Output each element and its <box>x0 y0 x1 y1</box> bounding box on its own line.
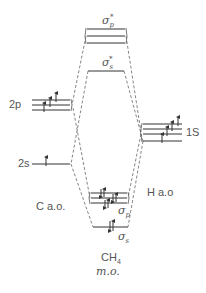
sigma-s-label: σs <box>118 231 129 245</box>
diagram-lines <box>0 0 206 293</box>
c-2s-label: 2s <box>18 158 30 169</box>
c-ao-label: C a.o. <box>36 201 65 212</box>
sigma-p-star-level <box>85 28 127 44</box>
c-2p-label: 2p <box>9 99 21 110</box>
sigma-p-star-label: σp* <box>102 14 118 29</box>
h-ao-label: H a.o <box>147 187 173 198</box>
sigma-s-star-label: σs* <box>102 56 117 71</box>
mo-label: m.o. <box>96 266 120 277</box>
sigma-p-label: σp <box>118 205 130 219</box>
mo-diagram: σp* σs* 2p 1S 2s H a.o C a.o. σp σs CH4 … <box>0 0 206 293</box>
h-1s-label: 1S <box>186 127 199 138</box>
c-2s-level <box>32 157 70 166</box>
h-1s-level <box>141 117 183 143</box>
c-2p-level <box>32 93 72 112</box>
ch4-label: CH4 <box>101 252 121 265</box>
